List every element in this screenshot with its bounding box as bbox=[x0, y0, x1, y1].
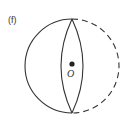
panel-label: (f) bbox=[8, 15, 17, 25]
solid-outer-arc bbox=[25, 19, 72, 113]
center-point-label: O bbox=[67, 68, 74, 79]
center-point bbox=[69, 61, 74, 66]
sphere-diagram: (f) O bbox=[0, 0, 124, 134]
dashed-outer-arc bbox=[72, 19, 119, 113]
diagram-graphic bbox=[0, 0, 124, 134]
